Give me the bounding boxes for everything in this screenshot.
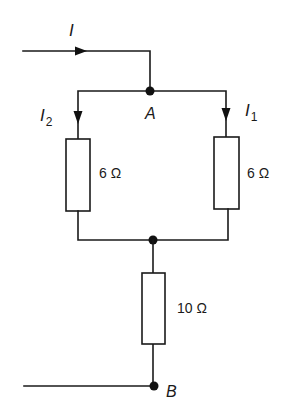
left-current-label: I2 [40,106,53,129]
input-current-arrow-icon [75,47,87,56]
series-resistor-value: 10 Ω [177,300,207,316]
node-a-label: A [144,105,156,122]
circuit-diagram: I A I2 I1 6 Ω 6 Ω 10 Ω B [0,0,295,416]
right-current-label: I1 [245,101,258,124]
left-resistor [66,139,90,211]
series-resistor [142,273,165,344]
node-a-dot [146,87,155,96]
right-resistor [214,137,239,209]
node-b-label: B [166,383,177,400]
bottom-bus-wire [78,209,228,240]
node-b-dot [150,382,159,391]
right-current-arrow-icon [222,108,231,121]
input-current-label: I [69,21,74,40]
left-resistor-value: 6 Ω [99,165,121,181]
input-wire [23,51,150,91]
left-current-arrow-icon [74,111,83,124]
right-resistor-value: 6 Ω [247,165,269,181]
